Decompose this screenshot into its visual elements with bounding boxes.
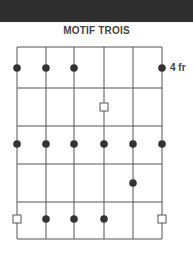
fretboard-diagram xyxy=(0,0,193,269)
note-dot xyxy=(70,140,78,148)
note-dot xyxy=(70,64,78,72)
note-dot xyxy=(158,140,166,148)
note-dot xyxy=(100,215,108,223)
note-dot xyxy=(70,215,78,223)
note-dot xyxy=(129,140,137,148)
root-square xyxy=(158,215,166,223)
note-dot xyxy=(42,140,50,148)
note-dot xyxy=(13,140,21,148)
note-dot xyxy=(13,64,21,72)
note-dot xyxy=(158,64,166,72)
note-dot xyxy=(100,140,108,148)
note-dot xyxy=(42,215,50,223)
root-square xyxy=(100,103,108,111)
note-dot xyxy=(42,64,50,72)
note-dot xyxy=(129,179,137,187)
root-square xyxy=(13,215,21,223)
